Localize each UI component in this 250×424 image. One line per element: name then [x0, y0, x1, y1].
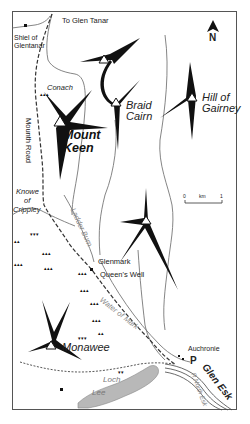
label-glentanar: Glentanar — [14, 42, 45, 49]
label-shiel-of: Shiel of — [14, 34, 37, 41]
crag-marks: ▾▾▾ — [30, 231, 39, 237]
crag-marks: ▴▴▴ — [78, 270, 87, 276]
label-parking: P — [190, 356, 197, 366]
north-label: N — [209, 33, 216, 43]
crag-marks: ▴▴ — [98, 330, 104, 336]
label-mounth-road: Mounth Road — [25, 118, 33, 163]
auchronie-building — [178, 355, 180, 357]
scale-end: 1 — [220, 194, 223, 199]
label-gairney: Gairney — [202, 103, 241, 114]
label-lee: Lee — [92, 389, 105, 397]
mounth-road-track — [35, 14, 175, 364]
crag-marks: ▴▴▴ — [14, 261, 23, 267]
scale-unit: km — [199, 194, 206, 199]
label-loch: Loch — [103, 376, 120, 384]
conach-burn — [47, 14, 86, 215]
gairney-stream — [160, 35, 173, 330]
label-glenmark: Glenmark — [98, 258, 131, 266]
label-monawee: Monawee — [62, 342, 110, 353]
crag-marks: ▴▴▴ — [80, 287, 89, 293]
label-mount: Mount — [63, 129, 100, 142]
north-arrow-icon — [207, 20, 219, 32]
auchronie-building — [182, 358, 184, 360]
east-stream — [138, 250, 165, 360]
top-stream — [12, 16, 50, 28]
shiel-building — [24, 24, 27, 27]
crag-marks: ▴▴▴ — [44, 265, 53, 271]
label-conach: Conach — [47, 84, 73, 92]
label-cairn: Cairn — [126, 111, 152, 122]
braid-stream — [99, 120, 116, 255]
crag-marks: ▴▴ — [14, 238, 20, 244]
glenmark-building — [90, 268, 93, 271]
label-queens-well: Queen's Well — [100, 271, 144, 279]
crag-marks: ▴▴▴ — [42, 250, 51, 256]
label-crippley: Crippley — [13, 206, 41, 214]
loch-building — [60, 388, 63, 391]
crag-marks: ▴▴▴ — [92, 317, 101, 323]
label-to-glen-tanar: To Glen Tanar — [62, 17, 109, 25]
scale-start: 0 — [183, 194, 186, 199]
scale-bar — [185, 200, 222, 203]
label-auchronie: Auchronie — [188, 345, 220, 352]
map-canvas: ▴▴ ▾▾▾ ▴▴▴ ▴▴▴ ▴▴▴ ▴▴▴ ▴▴▴ ▴▴▴ ▴▴▴ ▴▴ ▾▾… — [0, 0, 250, 424]
label-of: of — [24, 197, 30, 205]
label-keen: Keen — [63, 142, 94, 155]
label-knowe: Knowe — [16, 188, 39, 196]
